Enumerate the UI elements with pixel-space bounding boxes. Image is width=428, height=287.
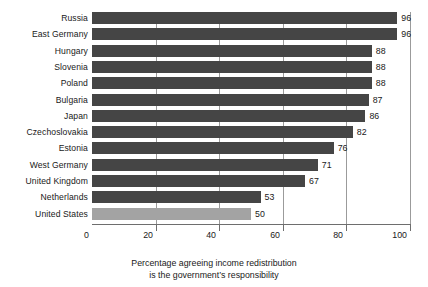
- category-label: United Kingdom: [0, 175, 88, 187]
- bar-value-label: 71: [322, 159, 332, 171]
- x-tick-20: [156, 225, 157, 231]
- caption-line-1: Percentage agreeing income redistributio…: [0, 258, 428, 270]
- category-label: Estonia: [0, 142, 88, 154]
- category-label: Poland: [0, 77, 88, 89]
- bar-value-label: 76: [338, 142, 348, 154]
- bar-chart: RussiaEast GermanyHungarySloveniaPolandB…: [0, 0, 428, 287]
- bar-value-label: 86: [369, 110, 379, 122]
- x-tick-label: 20: [143, 230, 156, 240]
- x-tick-label: 80: [333, 230, 346, 240]
- category-label: Bulgaria: [0, 94, 88, 106]
- x-tick-100: [410, 225, 411, 231]
- category-label: Hungary: [0, 45, 88, 57]
- bar-value-label: 67: [309, 175, 319, 187]
- x-tick-60: [283, 225, 284, 231]
- bar-value-label: 88: [376, 45, 386, 57]
- bar-value-label: 50: [255, 208, 265, 220]
- bar: [92, 208, 251, 220]
- bar: [92, 126, 353, 138]
- chart-caption: Percentage agreeing income redistributio…: [0, 258, 428, 281]
- bar-value-label: 88: [376, 77, 386, 89]
- bar: [92, 175, 305, 187]
- x-tick-label: 0: [84, 230, 92, 240]
- x-tick-40: [219, 225, 220, 231]
- bar: [92, 77, 372, 89]
- bar-value-label: 53: [265, 191, 275, 203]
- x-tick-label: 100: [392, 230, 410, 240]
- category-label: United States: [0, 208, 88, 220]
- bar-value-label: 96: [401, 28, 411, 40]
- category-label: East Germany: [0, 28, 88, 40]
- bar: [92, 159, 318, 171]
- plot-area: 96968888888786827671675350: [92, 12, 410, 224]
- category-label: Slovenia: [0, 61, 88, 73]
- bar: [92, 28, 397, 40]
- x-tick-80: [346, 225, 347, 231]
- gridline-100: [410, 12, 411, 224]
- x-tick-label: 60: [270, 230, 283, 240]
- category-label: Russia: [0, 12, 88, 24]
- bar: [92, 61, 372, 73]
- bar: [92, 94, 369, 106]
- x-axis-line: [92, 224, 411, 225]
- category-label: Japan: [0, 110, 88, 122]
- bar: [92, 110, 365, 122]
- caption-line-2: is the government’s responsibility: [0, 270, 428, 282]
- category-label: Czechoslovakia: [0, 126, 88, 138]
- x-tick-label: 40: [206, 230, 219, 240]
- category-axis-labels: RussiaEast GermanyHungarySloveniaPolandB…: [0, 12, 88, 224]
- bar: [92, 142, 334, 154]
- bar-value-label: 82: [357, 126, 367, 138]
- bar-value-label: 87: [373, 94, 383, 106]
- bar-value-label: 88: [376, 61, 386, 73]
- bar: [92, 45, 372, 57]
- bar-value-label: 96: [401, 12, 411, 24]
- bar: [92, 191, 261, 203]
- category-label: Netherlands: [0, 191, 88, 203]
- bar: [92, 12, 397, 24]
- category-label: West Germany: [0, 159, 88, 171]
